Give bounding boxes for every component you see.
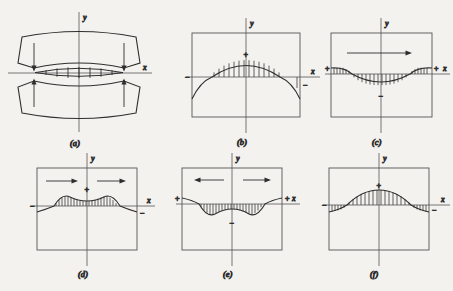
panel-d-x-label: x: [146, 196, 151, 205]
panel-e-sign-positive-left: +: [175, 194, 180, 203]
panel-d-y-label: y: [90, 154, 95, 163]
panel-f-sign-positive: +: [377, 181, 382, 190]
panel-e-caption: (e): [223, 269, 233, 279]
panel-b-sign-negative-left: −: [185, 73, 190, 82]
panel-c-sign-negative: −: [379, 92, 384, 101]
panel-c-sign-positive-left: +: [325, 64, 330, 73]
stress-distribution-figure: y x (a): [0, 0, 453, 291]
panel-e-sign-positive-right: +: [285, 194, 290, 203]
panel-f-y-label: y: [382, 154, 387, 163]
panel-d-sign-negative-right: −: [140, 209, 145, 218]
panel-c-caption: (c): [372, 137, 382, 147]
panel-e-y-label: y: [235, 154, 240, 163]
panel-b-sign-negative-right: −: [303, 81, 308, 90]
panel-f-sign-negative-right: −: [432, 206, 437, 215]
panel-f-x-label: x: [440, 195, 445, 204]
panel-a-y-label: y: [82, 13, 87, 22]
panel-e-x-label: x: [291, 194, 296, 203]
figure-background: [0, 0, 453, 291]
panel-b-sign-positive: +: [244, 50, 249, 59]
panel-b-x-label: x: [310, 67, 315, 76]
panel-e-sign-negative: −: [230, 219, 235, 228]
panel-b-caption: (b): [237, 137, 247, 147]
panel-d-sign-negative-left: −: [30, 202, 35, 211]
panel-c-y-label: y: [384, 19, 389, 28]
panel-b-y-label: y: [249, 19, 254, 28]
panel-d-sign-positive: +: [85, 185, 90, 194]
panel-a-x-label: x: [142, 63, 147, 72]
panel-c-x-label: x: [442, 64, 447, 73]
panel-c-sign-positive-right: +: [434, 64, 439, 73]
panel-f-caption: (f): [370, 269, 378, 279]
panel-f-sign-negative-left: −: [322, 201, 327, 210]
panel-a-caption: (a): [70, 138, 80, 148]
panel-d-caption: (d): [78, 269, 88, 279]
